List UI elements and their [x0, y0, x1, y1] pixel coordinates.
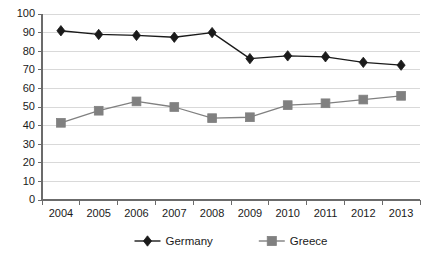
data-point — [246, 113, 255, 122]
line-chart: 0102030405060708090100 20042005200620072… — [0, 0, 438, 258]
chart-canvas: 0102030405060708090100 20042005200620072… — [0, 0, 438, 258]
y-axis-tick-label: 50 — [23, 100, 35, 112]
data-point — [283, 101, 292, 110]
y-axis-tick-label: 30 — [23, 138, 35, 150]
x-axis-tick-label: 2012 — [351, 207, 375, 219]
y-axis-tick-label: 90 — [23, 26, 35, 38]
data-point — [94, 106, 103, 115]
y-axis-tick-label: 10 — [23, 175, 35, 187]
y-axis-tick-label: 40 — [23, 119, 35, 131]
x-axis-tick-label: 2004 — [49, 207, 73, 219]
legend-label: Greece — [290, 235, 328, 247]
x-axis-tick-label: 2011 — [314, 207, 338, 219]
data-point — [208, 114, 217, 123]
x-axis-tick-label: 2010 — [275, 207, 299, 219]
y-axis-tick-label: 100 — [17, 7, 35, 19]
x-axis-tick-label: 2013 — [389, 207, 413, 219]
x-axis-tick-label: 2005 — [86, 207, 110, 219]
y-axis-tick-label: 20 — [23, 156, 35, 168]
x-axis-tick-label: 2006 — [124, 207, 148, 219]
legend-marker-square-icon — [267, 236, 276, 245]
data-point — [397, 91, 406, 100]
data-point — [321, 99, 330, 108]
data-point — [132, 97, 141, 106]
data-point — [359, 95, 368, 104]
y-axis-tick-label: 60 — [23, 82, 35, 94]
y-axis-tick-label: 0 — [29, 193, 35, 205]
x-axis-tick-label: 2009 — [238, 207, 262, 219]
data-point — [170, 103, 179, 112]
data-point — [57, 118, 66, 127]
chart-background — [0, 0, 438, 258]
x-axis-tick-label: 2007 — [162, 207, 186, 219]
legend-item-greece[interactable]: Greece — [259, 235, 328, 247]
y-axis-tick-label: 70 — [23, 63, 35, 75]
x-axis-tick-label: 2008 — [200, 207, 224, 219]
y-axis-tick-label: 80 — [23, 45, 35, 57]
legend-label: Germany — [165, 235, 213, 247]
